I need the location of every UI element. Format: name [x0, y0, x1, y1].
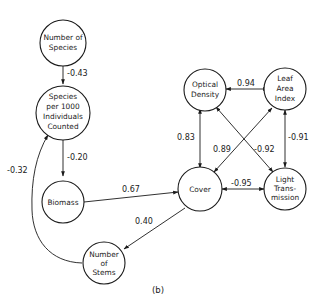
- svg-text:Species: Species: [49, 92, 78, 101]
- svg-text:Density: Density: [191, 90, 220, 99]
- svg-text:Trans-: Trans-: [273, 184, 297, 193]
- edge-leaf-light: -0.91: [285, 110, 309, 167]
- svg-text:Counted: Counted: [47, 122, 78, 131]
- edge-biomass-to-cover: 0.67: [84, 185, 178, 202]
- edge-optical-light: -0.92: [216, 107, 275, 172]
- edge-label: 0.67: [122, 185, 140, 194]
- edge-label: -0.91: [288, 133, 309, 142]
- svg-text:Biomass: Biomass: [47, 198, 78, 207]
- node-species-per-1000: Species per 1000 Individuals Counted: [36, 86, 90, 140]
- svg-text:Individuals: Individuals: [43, 112, 83, 121]
- node-biomass: Biomass: [42, 181, 84, 223]
- node-leaf-area-index: Leaf Area Index: [264, 68, 306, 110]
- svg-text:Cover: Cover: [189, 185, 212, 194]
- svg-text:of: of: [100, 259, 108, 268]
- edge-optical-cover: 0.83: [177, 109, 200, 168]
- edge-label: 0.83: [177, 133, 195, 142]
- edge-label: -0.92: [254, 145, 275, 154]
- edge-label: 0.94: [237, 79, 255, 88]
- svg-text:Number of: Number of: [43, 33, 83, 42]
- figure-caption: (b): [152, 285, 164, 295]
- svg-text:mission: mission: [271, 193, 300, 202]
- edge-label: -0.20: [67, 153, 88, 162]
- path-diagram: -0.43 -0.20 -0.32 0.67 0.40 0.94 0.83 0.…: [0, 0, 316, 298]
- edge-label: -0.95: [231, 179, 252, 188]
- svg-text:Leaf: Leaf: [277, 74, 293, 83]
- svg-text:Optical: Optical: [192, 80, 218, 89]
- node-number-of-stems: Number of Stems: [83, 242, 125, 284]
- node-optical-density: Optical Density: [184, 69, 226, 111]
- edge-label: 0.40: [135, 217, 153, 226]
- edge-label: -0.43: [67, 69, 88, 78]
- edge-species-to-species1000: -0.43: [63, 66, 88, 84]
- edge-species1000-to-biomass: -0.20: [63, 140, 88, 176]
- edge-leaf-cover: 0.89: [213, 108, 272, 172]
- edge-label: 0.89: [213, 145, 231, 154]
- node-light-transmission: Light Trans- mission: [264, 168, 306, 210]
- edge-cover-light: -0.95: [222, 179, 264, 189]
- svg-text:per 1000: per 1000: [46, 102, 80, 111]
- edge-cover-to-stems: 0.40: [124, 208, 185, 249]
- svg-text:Light: Light: [276, 175, 295, 184]
- node-number-of-species: Number of Species: [40, 20, 86, 66]
- svg-text:Species: Species: [49, 43, 78, 52]
- svg-text:Stems: Stems: [92, 268, 115, 277]
- svg-text:Area: Area: [276, 84, 293, 93]
- edge-optical-leaf: 0.94: [226, 79, 268, 89]
- svg-text:Index: Index: [275, 94, 296, 103]
- svg-text:Number: Number: [89, 250, 120, 259]
- node-cover: Cover: [178, 167, 222, 211]
- edge-label: -0.32: [7, 166, 28, 175]
